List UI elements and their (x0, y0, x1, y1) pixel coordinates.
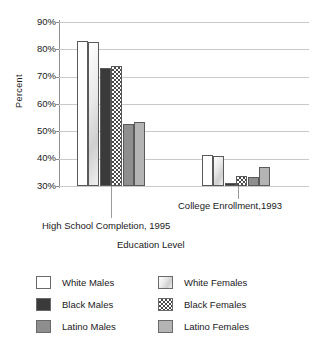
plot-area (59, 22, 309, 186)
y-tick-label-50: 50% (22, 126, 56, 136)
bar-col-black-males (225, 183, 236, 186)
gridline-30 (59, 186, 309, 187)
y-tickmark-30 (55, 186, 59, 187)
legend-label-latino-females: Latino Females (184, 321, 249, 332)
legend-swatch-white-males-icon (36, 276, 51, 289)
legend-item-latino-males: Latino Males (36, 315, 158, 337)
legend-label-white-females: White Females (184, 277, 247, 288)
y-tickmark-50 (55, 131, 59, 132)
y-tick-label-30: 30% (22, 181, 56, 191)
bar-hs-latino-males (123, 124, 134, 186)
legend-swatch-latino-males-icon (36, 320, 51, 333)
x-axis-title: Education Level (117, 239, 185, 250)
bar-col-white-females (213, 156, 224, 186)
legend-item-black-males: Black Males (36, 293, 158, 315)
category-tick-college (238, 186, 239, 199)
y-tick-label-90: 90% (22, 17, 56, 27)
legend-swatch-latino-females-icon (158, 320, 173, 333)
y-tickmark-60 (55, 104, 59, 105)
legend-column-males: White Males Black Males Latino Males (36, 271, 158, 337)
bar-hs-black-females (111, 66, 122, 186)
bar-col-black-females (236, 176, 247, 186)
legend-label-white-males: White Males (62, 277, 114, 288)
y-tick-label-60: 60% (22, 99, 56, 109)
gridline-90 (59, 22, 309, 23)
bar-hs-white-females (88, 42, 99, 186)
y-tick-label-70: 70% (22, 71, 56, 81)
chart-legend: White Males Black Males Latino Males Whi… (36, 271, 294, 339)
bar-hs-black-males (100, 68, 111, 186)
bar-hs-white-males (77, 41, 88, 186)
y-tickmark-40 (55, 159, 59, 160)
bar-col-white-males (202, 155, 213, 186)
bar-hs-latino-females (134, 122, 145, 186)
y-tick-label-40: 40% (22, 153, 56, 163)
legend-swatch-black-females-icon (158, 298, 173, 311)
y-tickmark-80 (55, 49, 59, 50)
legend-column-females: White Females Black Females Latino Femal… (158, 271, 280, 337)
category-label-high-school: High School Completion, 1995 (42, 220, 170, 231)
legend-swatch-white-females-icon (158, 276, 173, 289)
legend-swatch-black-males-icon (36, 298, 51, 311)
category-tick-high-school (111, 186, 112, 218)
legend-label-latino-males: Latino Males (62, 321, 116, 332)
bar-col-latino-males (248, 177, 259, 186)
y-tickmark-90 (55, 22, 59, 23)
category-label-college: College Enrollment,1993 (178, 200, 282, 211)
legend-item-latino-females: Latino Females (158, 315, 280, 337)
legend-item-white-females: White Females (158, 271, 280, 293)
bar-col-latino-females (259, 167, 270, 186)
legend-item-white-males: White Males (36, 271, 158, 293)
legend-item-black-females: Black Females (158, 293, 280, 315)
legend-label-black-males: Black Males (62, 299, 113, 310)
bar-chart: Percent 90% 80% 70% 60% 50% 40% 30% (0, 0, 320, 352)
y-tick-label-80: 80% (22, 44, 56, 54)
y-tickmark-70 (55, 77, 59, 78)
legend-label-black-females: Black Females (184, 299, 246, 310)
